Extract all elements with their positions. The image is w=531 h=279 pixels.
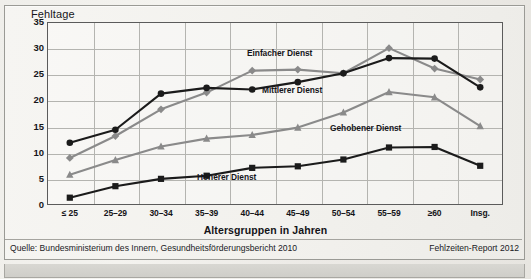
data-point-marker-square xyxy=(67,195,73,201)
x-axis-tick: 25–29 xyxy=(104,208,127,218)
x-axis-tick: 30–34 xyxy=(149,208,172,218)
footer-divider xyxy=(5,239,522,240)
y-axis-tick: 10 xyxy=(18,147,44,158)
x-axis-tick: Insg. xyxy=(471,208,490,218)
x-axis-tick: ≤ 25 xyxy=(62,208,78,218)
series-einfacher-dienst xyxy=(66,44,484,162)
series-label-hoeherer: Höherer Dienst xyxy=(197,172,256,182)
y-axis-tick: 25 xyxy=(18,68,44,79)
data-point-marker-square xyxy=(158,176,164,182)
series-h-herer-dienst xyxy=(67,144,484,201)
data-point-marker-circle xyxy=(112,126,119,133)
series-line xyxy=(70,48,480,158)
y-axis-tick: 20 xyxy=(18,94,44,105)
scanned-page: Fehltage 05101520253035 Einfacher Dienst… xyxy=(0,0,531,279)
data-point-marker-diamond xyxy=(385,44,393,52)
x-axis-tick: 50–54 xyxy=(332,208,355,218)
x-axis-tick: 35–39 xyxy=(195,208,218,218)
data-point-marker-square xyxy=(295,163,301,169)
y-axis-tick: 35 xyxy=(18,16,44,27)
data-point-marker-square xyxy=(112,183,118,189)
data-point-marker-circle xyxy=(477,84,484,91)
data-point-marker-circle xyxy=(431,55,438,62)
x-axis-tick: 45–49 xyxy=(286,208,309,218)
data-point-marker-diamond xyxy=(294,66,302,74)
report-note: Fehlzeiten-Report 2012 xyxy=(429,243,519,253)
series-mittlerer-dienst xyxy=(67,55,484,146)
data-point-marker-square xyxy=(386,144,392,150)
series-label-einfacher: Einfacher Dienst xyxy=(247,48,312,58)
source-note: Quelle: Bundesministerium des Innern, Ge… xyxy=(10,243,297,253)
x-axis-tick: 55–59 xyxy=(377,208,400,218)
data-point-marker-square xyxy=(249,165,255,171)
y-axis-tick: 0 xyxy=(18,199,44,210)
x-axis-tick-labels: ≤ 2525–2930–3435–3940–4445–4950–5455–59≥… xyxy=(47,208,503,224)
y-axis-tick: 15 xyxy=(18,121,44,132)
data-point-marker-diamond xyxy=(431,65,439,73)
x-axis-tick: 40–44 xyxy=(241,208,264,218)
data-point-marker-square xyxy=(432,144,438,150)
y-axis-tick: 5 xyxy=(18,173,44,184)
x-axis-title: Altersgruppen in Jahren xyxy=(0,224,531,236)
x-axis-tick: ≥60 xyxy=(428,208,442,218)
series-label-gehobener: Gehobener Dienst xyxy=(330,123,401,133)
y-axis-tick-labels: 05101520253035 xyxy=(14,0,44,279)
series-label-mittlerer: Mittlerer Dienst xyxy=(262,85,322,95)
series-line xyxy=(70,92,480,175)
series-gehobener-dienst xyxy=(66,88,484,178)
data-point-marker-circle xyxy=(67,139,74,146)
data-point-marker-diamond xyxy=(248,67,256,75)
y-axis-tick: 30 xyxy=(18,42,44,53)
data-point-marker-circle xyxy=(249,86,256,93)
data-point-marker-diamond xyxy=(476,76,484,84)
data-point-marker-circle xyxy=(386,55,393,62)
data-point-marker-circle xyxy=(340,70,347,77)
data-point-marker-circle xyxy=(203,85,210,92)
data-point-marker-diamond xyxy=(66,154,74,162)
bottom-strip xyxy=(4,264,525,278)
data-point-marker-square xyxy=(340,156,346,162)
data-point-marker-circle xyxy=(158,90,165,97)
data-point-marker-square xyxy=(477,163,483,169)
